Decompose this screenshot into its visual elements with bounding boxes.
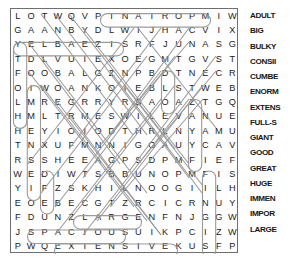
letter-cell[interactable]: O (118, 52, 131, 66)
letter-cell[interactable]: E (91, 240, 104, 255)
letter-cell[interactable]: I (132, 23, 145, 37)
letter-cell[interactable]: R (185, 196, 198, 210)
letter-cell[interactable]: W (65, 167, 78, 181)
letter-cell[interactable]: I (132, 240, 145, 255)
letter-cell[interactable]: U (226, 124, 240, 138)
letter-cell[interactable]: P (38, 225, 51, 239)
letter-cell[interactable]: I (24, 81, 37, 95)
letter-cell[interactable]: M (78, 139, 91, 153)
letter-cell[interactable]: H (132, 124, 145, 138)
letter-cell[interactable]: E (65, 196, 78, 210)
word-list-item[interactable]: GOOD (250, 145, 291, 160)
letter-cell[interactable]: N (172, 124, 185, 138)
letter-cell[interactable]: W (226, 9, 240, 23)
letter-cell[interactable]: Z (65, 211, 78, 225)
letter-cell[interactable]: N (199, 110, 212, 124)
letter-cell[interactable]: C (199, 139, 212, 153)
letter-cell[interactable]: V (145, 240, 158, 255)
letter-cell[interactable]: B (65, 23, 78, 37)
letter-cell[interactable]: Z (105, 67, 118, 81)
letter-cell[interactable]: N (105, 139, 118, 153)
letter-cell[interactable]: A (91, 211, 104, 225)
letter-cell[interactable]: N (172, 211, 185, 225)
letter-cell[interactable]: U (132, 167, 145, 181)
letter-cell[interactable]: H (11, 124, 24, 138)
letter-cell[interactable]: N (78, 81, 91, 95)
letter-cell[interactable]: I (78, 52, 91, 66)
letter-cell[interactable]: E (91, 110, 104, 124)
letter-cell[interactable]: W (199, 81, 212, 95)
letter-cell[interactable]: I (24, 182, 37, 196)
letter-cell[interactable]: T (78, 240, 91, 255)
letter-cell[interactable]: A (24, 23, 37, 37)
letter-cell[interactable]: F (11, 67, 24, 81)
letter-cell[interactable]: T (172, 67, 185, 81)
letter-cell[interactable]: W (118, 23, 131, 37)
letter-cell[interactable]: T (199, 95, 212, 109)
word-list-item[interactable]: IMMEN (250, 191, 291, 206)
letter-cell[interactable]: S (132, 153, 145, 167)
letter-cell[interactable]: G (212, 95, 225, 109)
letter-cell[interactable]: T (172, 52, 185, 66)
letter-cell[interactable]: K (158, 225, 171, 239)
letter-cell[interactable]: L (38, 38, 51, 52)
letter-cell[interactable]: C (145, 196, 158, 210)
letter-cell[interactable]: M (78, 110, 91, 124)
letter-cell[interactable]: N (199, 196, 212, 210)
letter-cell[interactable]: P (185, 9, 198, 23)
letter-cell[interactable]: W (226, 225, 240, 239)
letter-cell[interactable]: O (51, 81, 64, 95)
letter-cell[interactable]: P (91, 9, 104, 23)
letter-cell[interactable]: N (185, 38, 198, 52)
letter-cell[interactable]: S (199, 240, 212, 255)
letter-cell[interactable]: C (172, 196, 185, 210)
letter-cell[interactable]: G (185, 52, 198, 66)
letter-cell[interactable]: V (226, 139, 240, 153)
letter-cell[interactable]: O (158, 167, 171, 181)
letter-cell[interactable]: P (158, 153, 171, 167)
letter-cell[interactable]: P (118, 153, 131, 167)
letter-cell[interactable]: A (158, 139, 171, 153)
letter-cell[interactable]: I (185, 182, 198, 196)
letter-cell[interactable]: L (38, 110, 51, 124)
letter-cell[interactable]: F (212, 240, 225, 255)
letter-cell[interactable]: N (91, 139, 104, 153)
letter-cell[interactable]: Z (91, 38, 104, 52)
letter-cell[interactable]: S (132, 95, 145, 109)
letter-cell[interactable]: N (145, 211, 158, 225)
letter-cell[interactable]: F (38, 182, 51, 196)
letter-cell[interactable]: G (226, 38, 240, 52)
letter-cell[interactable]: S (172, 81, 185, 95)
letter-cell[interactable]: S (226, 167, 240, 181)
letter-cell[interactable]: R (118, 95, 131, 109)
letter-cell[interactable]: K (78, 182, 91, 196)
letter-cell[interactable]: J (158, 38, 171, 52)
letter-cell[interactable]: A (212, 139, 225, 153)
letter-cell[interactable]: A (38, 23, 51, 37)
letter-cell[interactable]: Q (38, 240, 51, 255)
letter-cell[interactable]: Z (118, 196, 131, 210)
letter-cell[interactable]: T (105, 9, 118, 23)
letter-cell[interactable]: M (24, 95, 37, 109)
letter-cell[interactable]: Z (185, 95, 198, 109)
letter-cell[interactable]: U (185, 240, 198, 255)
letter-cell[interactable]: G (91, 67, 104, 81)
letter-cell[interactable]: G (145, 52, 158, 66)
letter-cell[interactable]: F (199, 167, 212, 181)
letter-cell[interactable]: P (132, 67, 145, 81)
letter-cell[interactable]: R (11, 153, 24, 167)
letter-cell[interactable]: O (24, 196, 37, 210)
letter-cell[interactable]: I (158, 196, 171, 210)
letter-cell[interactable]: D (145, 153, 158, 167)
letter-cell[interactable]: N (145, 167, 158, 181)
letter-cell[interactable]: F (145, 38, 158, 52)
letter-cell[interactable]: E (132, 52, 145, 66)
letter-cell[interactable]: T (105, 196, 118, 210)
letter-cell[interactable]: D (38, 167, 51, 181)
letter-cell[interactable]: I (212, 167, 225, 181)
letter-cell[interactable]: G (212, 211, 225, 225)
letter-cell[interactable]: S (118, 225, 131, 239)
letter-cell[interactable]: R (145, 124, 158, 138)
word-list-item[interactable]: HUGE (250, 176, 291, 191)
letter-cell[interactable]: T (185, 81, 198, 95)
